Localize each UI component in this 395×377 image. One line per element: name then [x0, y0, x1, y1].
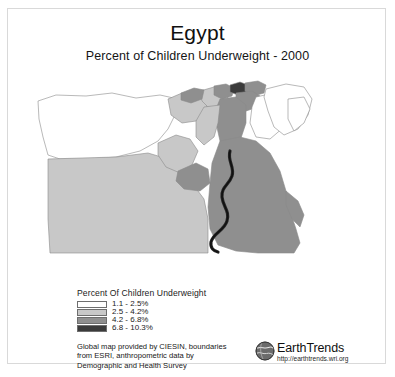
region-eastern-desert: [288, 97, 310, 131]
brand-name: EarthTrends: [277, 342, 348, 354]
credit-line-3: Demographic and Health Survey: [77, 361, 272, 370]
credit-line-2: from ESRI, anthropometric data by: [77, 351, 272, 360]
legend-label-4: 6.8 - 10.3%: [112, 324, 153, 332]
legend-swatch-4: [77, 325, 107, 332]
legend-item: 4.2 - 6.8%: [77, 316, 277, 324]
legend-item: 6.8 - 10.3%: [77, 324, 277, 332]
page-subtitle: Percent of Children Underweight - 2000: [8, 49, 387, 63]
region-matruh: [38, 93, 178, 159]
credit-line-1: Global map provided by CIESIN, boundarie…: [77, 342, 272, 351]
legend-swatch-2: [77, 309, 107, 316]
page-frame: Egypt Percent of Children Underweight - …: [7, 8, 386, 364]
brand-url[interactable]: http://earthtrends.wri.org: [277, 355, 348, 363]
earthtrends-brand: EarthTrends http://earthtrends.wri.org: [255, 341, 348, 363]
globe-icon: [255, 341, 275, 361]
legend-swatch-1: [77, 301, 107, 308]
map-canvas: [8, 79, 387, 284]
map-page: Egypt Percent of Children Underweight - …: [0, 0, 395, 377]
brand-text-block: EarthTrends http://earthtrends.wri.org: [277, 341, 348, 363]
source-credits: Global map provided by CIESIN, boundarie…: [77, 342, 272, 370]
page-title: Egypt: [8, 21, 387, 45]
legend-item: 1.1 - 2.5%: [77, 300, 277, 308]
egypt-choropleth-map: [8, 79, 387, 284]
legend-swatch-3: [77, 317, 107, 324]
legend-title: Percent Of Children Underweight: [77, 288, 277, 298]
map-legend: Percent Of Children Underweight 1.1 - 2.…: [77, 288, 277, 332]
legend-item: 2.5 - 4.2%: [77, 308, 277, 316]
